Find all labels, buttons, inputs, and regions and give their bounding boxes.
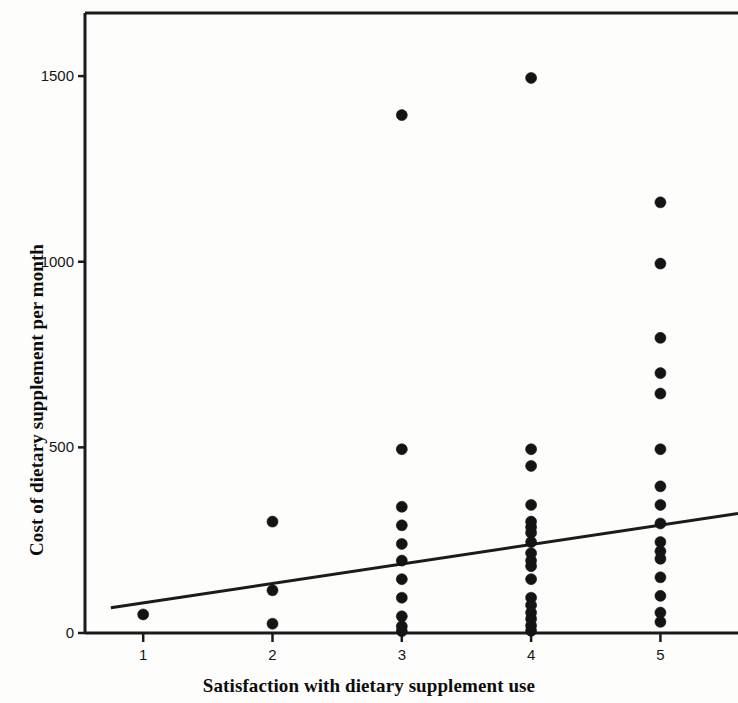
regression-line [111,513,738,607]
tick-marks [78,76,660,642]
axes-frame [85,13,738,633]
y-tick-label: 0 [10,624,74,641]
x-tick-label: 4 [511,646,551,663]
x-tick-label: 3 [382,646,422,663]
x-axis-title: Satisfaction with dietary supplement use [0,675,738,697]
data-points [138,72,666,636]
scatter-plot-figure: 050010001500 12345 Cost of dietary suppl… [0,0,738,703]
x-tick-label: 5 [640,646,680,663]
plot-canvas [0,0,738,703]
x-tick-label: 2 [252,646,292,663]
y-axis-title: Cost of dietary supplement per month [26,244,48,556]
x-tick-label: 1 [123,646,163,663]
y-tick-label: 1500 [10,67,74,84]
